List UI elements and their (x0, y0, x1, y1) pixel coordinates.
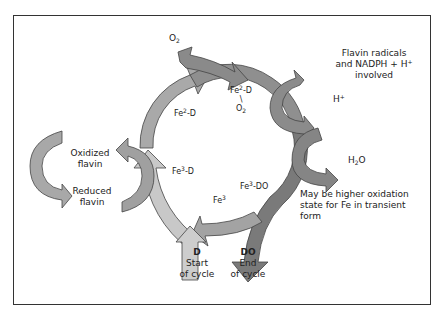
start-of-cycle-label: D Start of cycle (175, 247, 219, 280)
fe3-label: Fe3 (213, 195, 226, 206)
reduced-flavin-arrow (116, 138, 154, 212)
end-of-cycle-label: DO End of cycle (226, 247, 270, 280)
fe2-d-label: Fe2-D (174, 108, 196, 119)
o2-input-label: O2 (169, 33, 180, 44)
oxidation-state-note: May be higher oxidation state for Fe in … (300, 189, 409, 222)
reduced-flavin-label: Reduced flavin (66, 186, 118, 208)
oxidized-flavin-label: Oxidized flavin (64, 148, 116, 170)
fe3-d-label: Fe3-D (172, 166, 194, 177)
flavin-radicals-note: Flavin radicals and NADPH + H+ involved (314, 48, 434, 81)
h-plus-label: H+ (333, 94, 345, 105)
fe2-d-o2-label: Fe2-D \ O2 (226, 86, 256, 113)
h2o-label: H2O (348, 155, 366, 166)
fe3-do-label: Fe3-DO (240, 181, 268, 192)
